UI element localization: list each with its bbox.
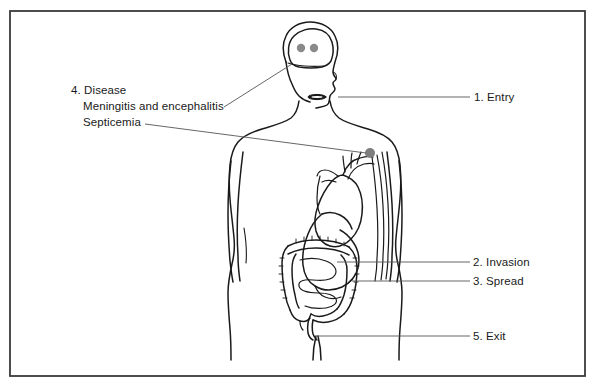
vessel-branch-1 [343,156,345,172]
appendix [300,321,303,330]
pathogen-dot-brain-right [310,44,318,52]
colon-descending-inner [337,255,347,309]
label-disease-meningitis: Meningitis and encephalitis [83,99,224,113]
heart [315,175,362,247]
label-disease-septicemia: Septicemia [83,115,141,129]
vessel-branch-2 [351,153,352,168]
colon-sigmoid [313,314,344,322]
label-entry: 1. Entry [474,90,514,104]
pathogen-dot-brain-left [297,44,305,52]
infection-stages-diagram [0,0,597,388]
left-arm-inner [237,152,243,281]
label-invasion: 2. Invasion [473,255,530,269]
torso-waist-left [244,228,246,263]
diagram-canvas: 1. Entry 2. Invasion 3. Spread 5. Exit 4… [0,0,597,388]
colon-ascending [282,246,290,310]
small-intestine [299,259,337,309]
colon-sigmoid-inner [311,309,337,316]
colon-ascending-inner [292,254,299,308]
vessel-branch-left-2 [322,181,336,183]
colon-transverse-lower [288,248,349,255]
aortic-arch-inner [348,163,374,179]
mouth-inner [312,96,323,98]
pathogen-dot-bloodstream [365,148,375,158]
label-disease: 4. Disease [71,83,126,97]
leader-line-meningitis [224,64,292,107]
cecum [290,310,310,321]
vessel-branch-left-1 [317,170,338,176]
stomach-upper [322,213,352,229]
legs-divider-right [318,336,321,360]
cranial-base-line [288,63,324,66]
leader-line-septicemia [145,124,366,153]
label-exit: 5. Exit [473,329,506,343]
label-spread: 3. Spread [473,274,524,288]
